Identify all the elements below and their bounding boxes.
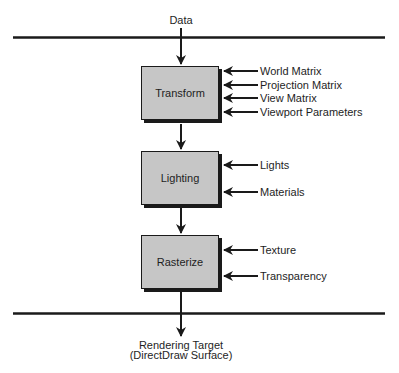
transparency-label: Transparency (260, 270, 327, 282)
world-matrix-label: World Matrix (260, 65, 322, 77)
directdraw-surface-label: (DirectDraw Surface) (81, 350, 281, 360)
rasterize-stage-label: Rasterize (157, 256, 203, 268)
projection-matrix-label: Projection Matrix (260, 79, 342, 91)
texture-label: Texture (260, 244, 296, 256)
lighting-stage-label: Lighting (161, 172, 200, 184)
view-matrix-label: View Matrix (260, 92, 317, 104)
input-data-label: Data (81, 15, 281, 25)
transform-stage-label: Transform (155, 87, 205, 99)
rasterize-stage-box: Rasterize (141, 235, 219, 289)
lighting-stage-box: Lighting (141, 151, 219, 205)
transform-stage-box: Transform (141, 66, 219, 120)
viewport-parameters-label: Viewport Parameters (260, 106, 363, 118)
lights-label: Lights (260, 159, 289, 171)
materials-label: Materials (260, 186, 305, 198)
